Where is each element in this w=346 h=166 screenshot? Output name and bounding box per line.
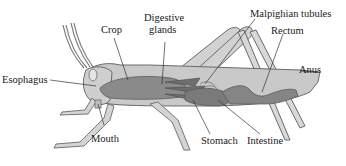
label-crop: Crop xyxy=(101,24,122,35)
antennae xyxy=(63,23,93,68)
label-stomach: Stomach xyxy=(201,135,238,146)
label-malpighian-tubules: Malpighian tubules xyxy=(250,8,331,19)
label-digestive-glands-line1: Digestive xyxy=(144,12,184,23)
label-rectum: Rectum xyxy=(271,25,304,36)
label-mouth: Mouth xyxy=(91,133,119,144)
eye xyxy=(89,69,97,81)
label-digestive-glands-line2: glands xyxy=(149,24,176,35)
label-anus: Anus xyxy=(299,64,321,75)
label-esophagus: Esophagus xyxy=(2,74,48,85)
label-intestine: Intestine xyxy=(247,135,283,146)
